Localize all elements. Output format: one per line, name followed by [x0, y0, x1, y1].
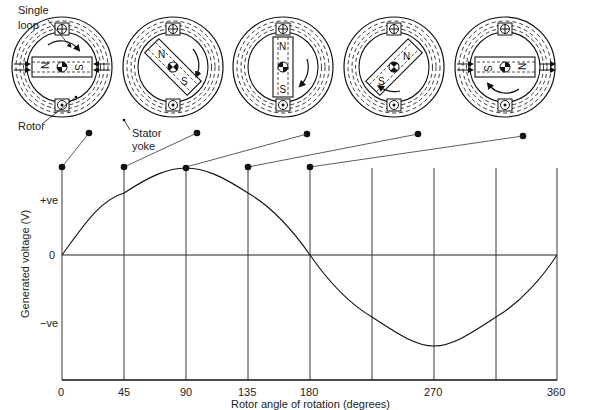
north-pole-label: N — [279, 41, 286, 52]
voltage-curve — [62, 168, 557, 346]
rotor-position-45: N S — [123, 17, 223, 117]
voltage-chart: +ve 0 −ve Generated voltage (V) 0 45 90 … — [19, 164, 565, 410]
y-tick-negative: −ve — [40, 317, 58, 329]
x-tick-360: 360 — [547, 386, 565, 398]
x-tick-180: 180 — [300, 386, 318, 398]
svg-text:loop: loop — [18, 19, 39, 31]
rotation-arrow-icon — [489, 85, 519, 93]
rotation-arrow-icon — [193, 49, 199, 75]
rotor-position-90: N S — [233, 17, 333, 117]
svg-text:yoke: yoke — [132, 140, 155, 152]
y-axis-label: Generated voltage (V) — [19, 210, 31, 318]
north-pole-label: N — [158, 49, 165, 60]
south-pole-label: S — [181, 76, 188, 87]
rotation-arrow-icon — [48, 41, 78, 49]
north-pole-label: N — [40, 62, 51, 69]
annotation-stator-yoke: Stator yoke — [123, 119, 162, 152]
alternator-diagram: N S N S N S N S S N — [0, 0, 589, 410]
north-pole-label: N — [517, 63, 528, 70]
svg-text:Single: Single — [18, 4, 49, 16]
x-tick-0: 0 — [58, 386, 64, 398]
svg-text:Stator: Stator — [132, 127, 162, 139]
x-tick-45: 45 — [118, 386, 130, 398]
south-pole-label: S — [378, 76, 385, 87]
y-tick-positive: +ve — [40, 194, 58, 206]
rotation-arrow-icon — [301, 59, 308, 85]
north-pole-label: N — [403, 51, 410, 62]
angle-markers — [59, 164, 314, 172]
svg-text:Rotor: Rotor — [18, 120, 45, 132]
rotor-position-0: N S — [12, 17, 112, 117]
rotor-position-135: N S — [344, 17, 444, 117]
grid-verticals — [62, 167, 557, 380]
x-tick-90: 90 — [180, 386, 192, 398]
rotor-position-180: S N — [455, 17, 555, 117]
south-pole-label: S — [280, 84, 287, 95]
south-pole-label: S — [482, 65, 493, 72]
south-pole-label: S — [73, 64, 84, 71]
x-tick-270: 270 — [424, 386, 442, 398]
x-tick-135: 135 — [238, 386, 256, 398]
y-tick-zero: 0 — [49, 249, 55, 261]
x-axis-label: Rotor angle of rotation (degrees) — [231, 398, 390, 410]
